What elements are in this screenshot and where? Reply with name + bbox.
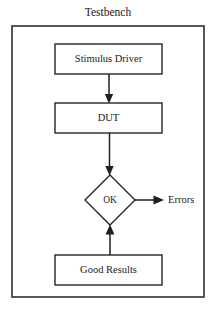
edge-stimulus-to-dut bbox=[105, 74, 113, 104]
edge-ok-to-errors bbox=[135, 195, 164, 204]
ok-decision-label: OK bbox=[103, 195, 117, 205]
edge-dut-to-ok-arrowhead-icon bbox=[105, 166, 113, 176]
good-results-label: Good Results bbox=[80, 264, 137, 275]
edge-good-results-to-ok bbox=[106, 225, 115, 256]
dut-label: DUT bbox=[98, 112, 120, 123]
diagram-title: Testbench bbox=[85, 6, 132, 18]
node-stimulus-driver[interactable]: Stimulus Driver bbox=[55, 44, 162, 74]
node-ok-decision[interactable]: OK bbox=[85, 175, 135, 225]
node-good-results[interactable]: Good Results bbox=[55, 255, 162, 285]
edge-ok-to-errors-arrowhead-icon bbox=[154, 195, 165, 204]
diagram-canvas: Testbench Stimulus Driver DUT OK bbox=[0, 0, 216, 312]
edge-good-results-to-ok-arrowhead-icon bbox=[106, 225, 115, 235]
edge-stimulus-to-dut-arrowhead-icon bbox=[105, 94, 113, 104]
errors-label: Errors bbox=[168, 194, 194, 205]
edge-dut-to-ok bbox=[105, 133, 113, 176]
flowchart-diagram: Testbench Stimulus Driver DUT OK bbox=[0, 0, 216, 312]
node-dut[interactable]: DUT bbox=[55, 103, 162, 133]
stimulus-driver-label: Stimulus Driver bbox=[75, 53, 143, 64]
